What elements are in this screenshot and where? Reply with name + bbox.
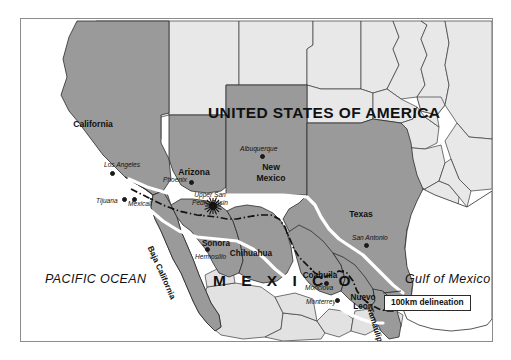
city-dot-san-antonio (364, 243, 369, 248)
city-dot-hermosillo (205, 247, 210, 252)
state-new-mexico (226, 85, 307, 195)
city-dot-monterrey (335, 298, 340, 303)
city-dot-tijuana (122, 197, 127, 202)
city-dot-monclova (324, 281, 329, 286)
legend-100km-delineation: 100km delineation (384, 295, 471, 311)
upper-san-pedro-basin-marker (205, 198, 222, 215)
border-region-map: UNITED STATES OF AMERICA M E X I C O PAC… (0, 0, 511, 360)
city-dot-mexicali (132, 197, 137, 202)
map-frame: UNITED STATES OF AMERICA M E X I C O PAC… (20, 18, 493, 342)
city-dot-phoenix (189, 180, 194, 185)
state-california (61, 21, 171, 195)
state-arizona (169, 115, 226, 193)
city-dot-albuquerque (260, 154, 265, 159)
map-graphic (21, 19, 492, 341)
city-dot-los-angeles (110, 171, 115, 176)
